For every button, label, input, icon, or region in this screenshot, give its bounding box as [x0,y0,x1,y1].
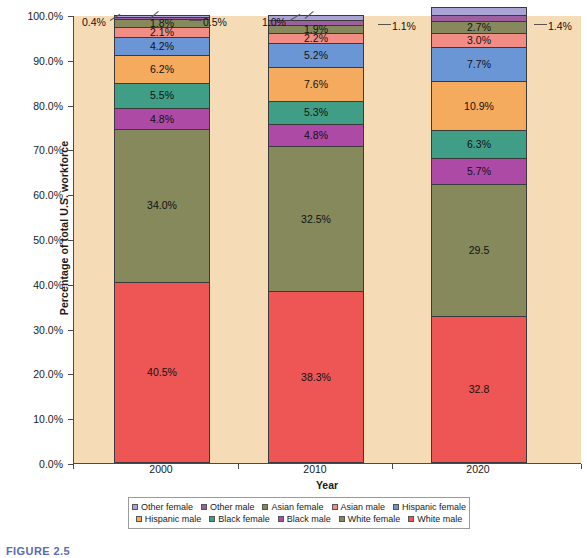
plot-area: 40.5%34.0%4.8%5.5%6.2%4.2%2.1%1.8%38.3%3… [73,16,581,464]
legend-swatch-icon [132,504,138,510]
y-axis-title: Percentage of total U.S. workforce [58,68,70,388]
segment-value-label: 2.7% [467,22,491,33]
legend-swatch-icon [408,516,414,522]
y-tick-label: 20.0% [11,369,63,379]
legend-item[interactable]: Black male [278,513,331,525]
legend-row-1: Other femaleOther maleAsian femaleAsian … [133,501,465,513]
chart-legend: Other femaleOther maleAsian femaleAsian … [128,497,470,529]
bar-segment[interactable] [431,7,527,15]
bar-segment[interactable]: 32.8 [431,316,527,463]
bar-segment[interactable]: 34.0% [114,129,210,281]
x-tick-mark [73,464,74,469]
legend-item[interactable]: Other female [132,501,193,513]
legend-swatch-icon [339,516,345,522]
legend-item[interactable]: White female [339,513,401,525]
x-tick-label-2000: 2000 [101,463,221,475]
segment-value-label: 3.0% [467,35,491,46]
legend-item[interactable]: Hispanic female [393,501,466,513]
x-axis-title: Year [73,479,581,491]
legend-item-label: Hispanic female [402,501,466,513]
legend-item-label: Other male [210,501,255,513]
segment-value-label: 32.8 [469,384,489,395]
legend-swatch-icon [136,516,142,522]
y-tick-label: 0.0% [11,459,63,469]
y-tick-label: 100.0% [11,11,63,21]
bar-segment[interactable]: 29.5 [431,184,527,316]
legend-swatch-icon [201,504,207,510]
bar-segment[interactable] [431,15,527,21]
segment-value-label: 5.7% [467,166,491,177]
legend-swatch-icon [332,504,338,510]
legend-item[interactable]: Asian female [262,501,323,513]
bar-segment[interactable]: 32.5% [268,146,364,292]
legend-swatch-icon [393,504,399,510]
segment-value-label: 6.3% [467,139,491,150]
segment-value-label: 5.2% [304,50,328,61]
legend-item[interactable]: Asian male [332,501,386,513]
y-tick-label: 50.0% [11,235,63,245]
legend-item-label: Other female [141,501,193,513]
callout-leader-line [378,24,391,25]
bar-segment[interactable]: 4.2% [114,37,210,56]
legend-swatch-icon [262,504,268,510]
figure-container: Percentage of total U.S. workforce 100.0… [0,0,587,558]
legend-item[interactable]: Hispanic male [136,513,202,525]
x-tick-mark [392,464,393,469]
legend-item-label: White female [348,513,401,525]
bar-segment[interactable]: 4.8% [268,124,364,146]
bar-2000[interactable]: 40.5%34.0%4.8%5.5%6.2%4.2%2.1%1.8% [114,15,210,463]
bar-segment[interactable]: 6.2% [114,55,210,83]
legend-item-label: Hispanic male [145,513,202,525]
x-tick-label-2020: 2020 [418,463,538,475]
callout-label: 0.4% [82,17,106,28]
bar-segment[interactable]: 2.7% [431,21,527,33]
x-tick-mark [581,464,582,469]
callout-label: 1.4% [548,21,572,32]
bar-segment[interactable] [114,15,210,17]
bar-2010[interactable]: 38.3%32.5%4.8%5.3%7.6%5.2%2.2%1.9% [268,15,364,463]
legend-item[interactable]: White male [408,513,462,525]
segment-value-label: 34.0% [147,200,177,211]
bar-segment[interactable]: 3.0% [431,33,527,46]
bar-segment[interactable]: 38.3% [268,291,364,463]
bar-segment[interactable]: 5.7% [431,158,527,184]
legend-item[interactable]: Black female [209,513,270,525]
callout-label: 1.0% [262,17,286,28]
bar-segment[interactable]: 6.3% [431,130,527,158]
legend-swatch-icon [278,516,284,522]
segment-value-label: 5.3% [304,107,328,118]
legend-item-label: Asian male [341,501,386,513]
callout-leader-line [534,24,547,25]
bar-segment[interactable]: 7.6% [268,67,364,101]
y-tick-label: 70.0% [11,145,63,155]
y-tick-label: 80.0% [11,101,63,111]
y-tick-label: 40.0% [11,280,63,290]
bar-segment[interactable]: 10.9% [431,81,527,130]
segment-value-label: 7.7% [467,59,491,70]
segment-value-label: 32.5% [301,214,331,225]
segment-value-label: 7.6% [304,79,328,90]
legend-item-label: Black male [287,513,331,525]
segment-value-label: 2.1% [150,27,174,38]
bar-segment[interactable]: 40.5% [114,282,210,463]
x-tick-label-2010: 2010 [255,463,375,475]
segment-value-label: 4.8% [304,130,328,141]
figure-caption: FIGURE 2.5 [6,545,70,557]
bar-segment[interactable]: 5.2% [268,43,364,66]
y-tick-label: 90.0% [11,56,63,66]
segment-value-label: 4.8% [150,114,174,125]
callout-leader-line [189,20,202,21]
segment-value-label: 10.9% [464,101,494,112]
segment-value-label: 5.5% [150,90,174,101]
bar-segment[interactable]: 4.8% [114,108,210,130]
bar-segment[interactable]: 5.5% [114,83,210,108]
bar-segment[interactable]: 2.2% [268,33,364,43]
callout-label: 0.5% [203,17,227,28]
bar-segment[interactable]: 7.7% [431,47,527,81]
bar-2020[interactable]: 32.829.55.7%6.3%10.9%7.7%3.0%2.7% [431,15,527,463]
bar-segment[interactable]: 5.3% [268,101,364,125]
bar-segment[interactable] [114,17,210,19]
segment-value-label: 6.2% [150,64,174,75]
legend-item[interactable]: Other male [201,501,255,513]
bar-segment[interactable]: 2.1% [114,27,210,36]
